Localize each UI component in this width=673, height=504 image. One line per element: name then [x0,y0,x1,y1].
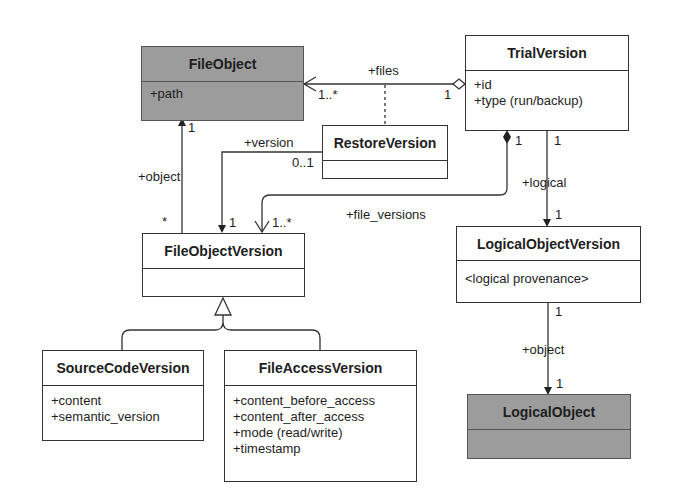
class-name: FileObjectVersion [143,234,304,269]
class-attributes: +content +semantic_version [43,386,203,425]
class-name: SourceCodeVersion [43,351,203,386]
class-name: FileAccessVersion [225,351,416,386]
files-role-label: +files [368,64,399,78]
generalization-triangle [215,298,231,315]
attribute: +id [474,77,628,93]
file-versions-target-multiplicity: 1..* [272,216,292,230]
class-attributes: +content_before_access +content_after_ac… [225,386,416,457]
attribute: +path [150,86,303,102]
class-name: LogicalObject [468,395,630,430]
attribute: +content_before_access [233,393,416,409]
logical-object-target-multiplicity: 1 [556,377,563,391]
class-trial-version[interactable]: TrialVersion +id +type (run/backup) [465,35,629,131]
version-arrowhead [218,225,226,233]
class-source-code-version[interactable]: SourceCodeVersion +content +semantic_ver… [42,350,204,441]
logical-target-multiplicity: 1 [555,208,562,222]
class-restore-version[interactable]: RestoreVersion [322,125,448,179]
composition-diamond [503,130,511,144]
attribute: +content_after_access [233,409,416,425]
version-source-multiplicity: 0..1 [292,156,314,170]
logical-object-source-multiplicity: 1 [555,305,562,319]
class-attributes: +path [142,82,303,102]
file-versions-source-multiplicity: 1 [515,134,522,148]
file-versions-role-label: +file_versions [346,208,426,222]
attribute: +mode (read/write) [233,425,416,441]
version-role-label: +version [244,136,294,150]
generalization-bracket [122,315,320,350]
files-target-multiplicity: 1..* [318,88,338,102]
class-attributes: <logical provenance> [457,261,640,287]
class-name: RestoreVersion [323,126,447,161]
logical-object-role-label: +object [522,343,564,357]
class-file-object[interactable]: FileObject +path [141,46,304,121]
object-source-multiplicity: * [162,215,167,229]
class-attributes: +id +type (run/backup) [466,71,628,109]
attribute: +timestamp [233,441,416,457]
attribute: +content [51,393,203,409]
class-file-object-version[interactable]: FileObjectVersion [142,233,305,297]
class-logical-object-version[interactable]: LogicalObjectVersion <logical provenance… [456,226,641,303]
object-target-multiplicity: 1 [188,121,195,135]
logical-role-label: +logical [522,176,566,190]
aggregation-diamond [453,79,465,89]
class-logical-object[interactable]: LogicalObject [467,394,631,459]
attribute: <logical provenance> [465,271,640,287]
version-target-multiplicity: 1 [229,216,236,230]
attribute: +semantic_version [51,409,203,425]
attribute: +type (run/backup) [474,93,628,109]
logical-source-multiplicity: 1 [554,134,561,148]
class-name: FileObject [142,47,303,82]
object-role-label: +object [138,170,180,184]
class-name: LogicalObjectVersion [457,227,640,261]
class-name: TrialVersion [466,36,628,71]
class-file-access-version[interactable]: FileAccessVersion +content_before_access… [224,350,417,482]
files-source-multiplicity: 1 [444,88,451,102]
